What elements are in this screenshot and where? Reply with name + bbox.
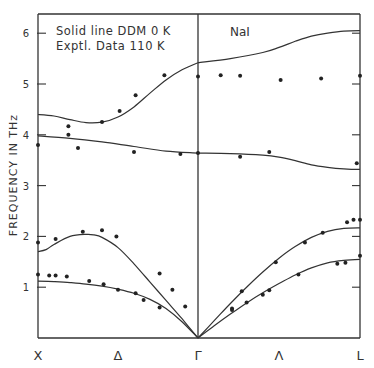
- data-point: [267, 288, 271, 292]
- data-point: [158, 271, 162, 275]
- dispersion-curve-4-delta: [38, 63, 198, 123]
- data-point: [196, 74, 200, 78]
- data-point: [343, 261, 347, 265]
- chart-title: NaI: [230, 25, 250, 39]
- data-point: [238, 74, 242, 78]
- data-point: [170, 288, 174, 292]
- data-point: [102, 282, 106, 286]
- data-point: [114, 234, 118, 238]
- data-point: [196, 151, 200, 155]
- data-point: [355, 161, 359, 165]
- data-point: [230, 308, 234, 312]
- dispersion-curve-2-delta: [38, 234, 198, 338]
- data-point: [162, 73, 166, 77]
- experimental-points: [36, 73, 362, 312]
- data-point: [245, 300, 249, 304]
- dispersion-curve-3-delta: [38, 136, 198, 153]
- data-point: [87, 279, 91, 283]
- x-tick-label: Γ: [194, 348, 202, 363]
- data-point: [238, 155, 242, 159]
- dispersion-curve-4-lambda: [198, 31, 360, 63]
- data-point: [178, 152, 182, 156]
- legend-line-2: Exptl. Data 110 K: [56, 39, 165, 53]
- data-point: [54, 274, 58, 278]
- data-point: [76, 146, 80, 150]
- data-point: [319, 76, 323, 80]
- y-tick-label: 2: [23, 231, 29, 242]
- y-ticks: 123456: [23, 28, 360, 293]
- x-tick-label: X: [34, 348, 43, 363]
- y-tick-label: 1: [23, 282, 29, 293]
- x-tick-label: Λ: [275, 348, 284, 363]
- data-point: [100, 228, 104, 232]
- data-point: [65, 275, 69, 279]
- data-point: [36, 143, 40, 147]
- data-point: [100, 120, 104, 124]
- data-point: [134, 93, 138, 97]
- data-point: [296, 273, 300, 277]
- data-point: [142, 298, 146, 302]
- y-axis-label: FREQUENCY IN THz: [7, 114, 20, 236]
- legend-line-1: Solid line DDM 0 K: [56, 24, 171, 38]
- dispersion-curve-3-lambda: [198, 153, 360, 169]
- data-point: [134, 291, 138, 295]
- data-point: [279, 78, 283, 82]
- dispersion-curve-2-lambda: [198, 228, 360, 338]
- data-point: [81, 230, 85, 234]
- data-point: [158, 306, 162, 310]
- data-point: [219, 73, 223, 77]
- data-point: [358, 254, 362, 258]
- data-point: [261, 293, 265, 297]
- phonon-dispersion-chart: 123456 XΔΓΛL Solid line DDM 0 K Exptl. D…: [0, 0, 374, 368]
- data-point: [358, 218, 362, 222]
- data-point: [352, 218, 356, 222]
- x-tick-label: L: [356, 348, 364, 363]
- data-point: [183, 305, 187, 309]
- dispersion-curve-1-lambda: [198, 259, 360, 338]
- data-point: [267, 150, 271, 154]
- x-ticks: XΔΓΛL: [34, 348, 365, 363]
- data-point: [345, 220, 349, 224]
- y-tick-label: 5: [23, 79, 29, 90]
- data-point: [36, 240, 40, 244]
- data-point: [303, 240, 307, 244]
- data-point: [54, 237, 58, 241]
- y-tick-label: 4: [23, 130, 29, 141]
- data-point: [132, 150, 136, 154]
- data-point: [36, 273, 40, 277]
- data-point: [274, 260, 278, 264]
- y-tick-label: 3: [23, 181, 29, 192]
- y-tick-label: 6: [23, 28, 29, 39]
- data-point: [358, 74, 362, 78]
- x-tick-label: Δ: [114, 348, 123, 363]
- data-point: [116, 288, 120, 292]
- data-point: [321, 231, 325, 235]
- data-point: [240, 289, 244, 293]
- data-point: [47, 274, 51, 278]
- data-point: [66, 133, 70, 137]
- data-point: [66, 124, 70, 128]
- data-point: [118, 109, 122, 113]
- data-point: [335, 262, 339, 266]
